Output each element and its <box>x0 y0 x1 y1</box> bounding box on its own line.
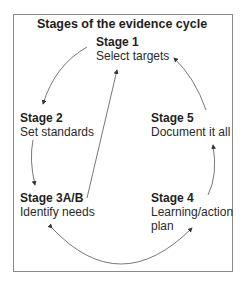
arrow-5-to-1 <box>174 58 206 110</box>
arrow-4-to-5 <box>208 145 215 195</box>
arrow-1-to-2 <box>43 47 87 104</box>
arrow-3-4-bidirectional <box>52 228 192 264</box>
arrow-2-to-3 <box>31 140 35 185</box>
arrow-3-to-1 <box>87 70 117 198</box>
cycle-arrows <box>0 0 244 293</box>
